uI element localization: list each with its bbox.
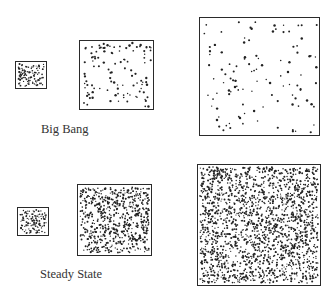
galaxy-dots: [200, 18, 319, 135]
galaxy-dots: [80, 41, 153, 109]
steady-state-label: Steady State: [40, 267, 102, 282]
galaxy-dots: [18, 208, 48, 235]
big-bang-medium-universe-box: [79, 40, 154, 110]
big-bang-small-universe-box: [15, 61, 47, 89]
big-bang-large-universe-box: [199, 17, 320, 136]
steady-state-small-universe-box: [17, 207, 49, 236]
galaxy-dots: [198, 165, 320, 285]
galaxy-dots: [16, 62, 46, 88]
steady-state-large-universe-box: [197, 164, 321, 286]
big-bang-label: Big Bang: [41, 122, 89, 137]
galaxy-dots: [78, 185, 151, 255]
steady-state-medium-universe-box: [77, 184, 152, 256]
